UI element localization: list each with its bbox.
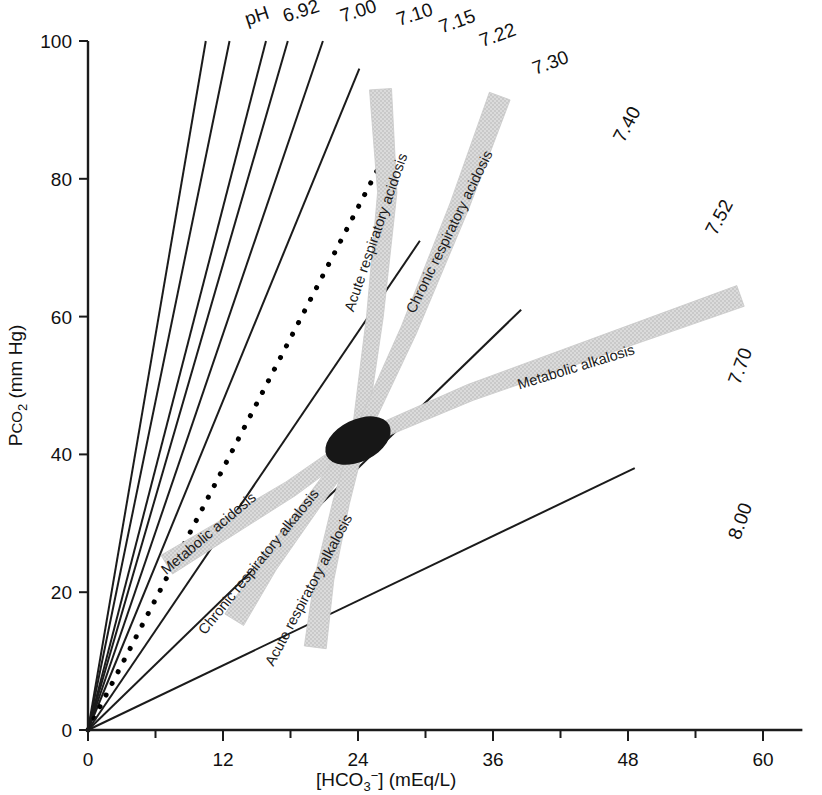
x-tick-label: 36: [482, 749, 503, 770]
ph-isoline-8-00: [88, 468, 635, 730]
ph-label-6-92: 6.92: [280, 0, 322, 26]
x-tick-label: 0: [83, 749, 94, 770]
y-tick-label: 20: [51, 582, 72, 603]
y-tick-label: 80: [51, 169, 72, 190]
ph-label-8-00: 8.00: [724, 500, 756, 542]
ph-label-7-22: 7.22: [477, 19, 519, 51]
axes-group: 02040608010001224364860: [40, 31, 802, 770]
acid-base-nomogram: 02040608010001224364860 Acute respirator…: [0, 0, 822, 795]
x-tick-label: 12: [212, 749, 233, 770]
ph-label-7-40: 7.40: [609, 103, 645, 146]
band-label-chronic-respiratory-acidosis: Chronic respiratory acidosis: [403, 148, 496, 316]
ph-label-7-00: 7.00: [337, 0, 379, 26]
ph-label-7-15: 7.15: [436, 5, 478, 37]
ph-isoline-7-10: [88, 41, 266, 730]
axis-titles-group: [HCO3−] (mEq/L)PCO2 (mm Hg): [5, 325, 456, 794]
ph-label-7-30: 7.30: [529, 46, 571, 78]
y-tick-label: 100: [40, 31, 72, 52]
nomogram-figure: 02040608010001224364860 Acute respirator…: [0, 0, 822, 795]
ph-label-7-70: 7.70: [724, 345, 756, 387]
y-tick-label: 40: [51, 444, 72, 465]
x-tick-label: 60: [752, 749, 773, 770]
x-axis-title: [HCO3−] (mEq/L): [316, 768, 456, 794]
band-labels-group: Acute respiratory acidosisChronic respir…: [158, 148, 636, 669]
x-tick-label: 24: [347, 749, 369, 770]
band-label-metabolic-acidosis: Metabolic acidosis: [158, 489, 259, 577]
x-tick-label: 48: [617, 749, 638, 770]
y-tick-label: 0: [61, 720, 72, 741]
y-axis-title: PCO2 (mm Hg): [5, 325, 30, 447]
ph-axis-prefix-label: pH: [242, 2, 272, 29]
y-tick-label: 60: [51, 307, 72, 328]
ph-label-7-52: 7.52: [701, 196, 737, 239]
ph-label-7-10: 7.10: [394, 0, 436, 30]
